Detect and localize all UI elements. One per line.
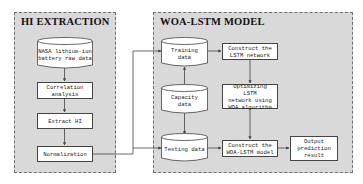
optimizing-line2: network using <box>228 97 272 104</box>
extract-line1: Extract HI <box>48 118 82 125</box>
output-line2: prediction <box>297 145 331 152</box>
output-prediction-node: Output prediction result <box>290 136 338 161</box>
construct-woa-lstm-node: Construct the WOA-LSTM model <box>222 140 278 157</box>
testing-line1: Testing data <box>164 146 204 153</box>
testing-data-node: Testing data <box>161 133 208 162</box>
correlation-analysis-node: Correlation analysis <box>37 82 93 99</box>
nasa-line1: NASA lithium-ion <box>38 48 92 55</box>
normalization-line1: Normalization <box>43 151 87 158</box>
capacity-line1: Capacity <box>171 94 198 101</box>
capacity-data-node: Capacity data <box>161 84 208 114</box>
construct-lstm-line2: LSTM network <box>230 52 270 59</box>
optimizing-line1: Optimizing LSTM <box>225 83 275 97</box>
construct-woa-line2: WOA-LSTM model <box>227 149 274 156</box>
extract-hi-node: Extract HI <box>37 113 93 129</box>
optimizing-line3: WOA algorithm <box>228 104 272 111</box>
correlation-line2: analysis <box>52 91 79 98</box>
nasa-raw-data-node: NASA lithium-ion battery raw data <box>37 37 93 69</box>
construct-lstm-node: Construct the LSTM network <box>222 43 278 60</box>
training-line2: data <box>178 54 191 61</box>
construct-lstm-line1: Construct the <box>228 45 272 52</box>
optimizing-lstm-node: Optimizing LSTM network using WOA algori… <box>222 84 278 109</box>
training-data-node: Training data <box>161 37 208 67</box>
construct-woa-line1: Construct the <box>228 142 272 149</box>
normalization-node: Normalization <box>37 146 93 162</box>
capacity-line2: data <box>178 101 191 108</box>
correlation-line1: Correlation <box>47 84 84 91</box>
output-line1: Output <box>304 138 324 145</box>
nasa-line2: battery raw data <box>38 55 92 62</box>
training-line1: Training <box>171 47 198 54</box>
output-line3: result <box>304 152 324 159</box>
